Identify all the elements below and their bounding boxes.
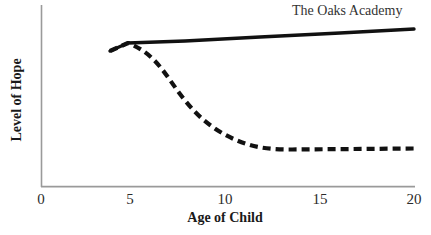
x-axis-title: Age of Child xyxy=(145,211,305,225)
series-line-oaks-academy xyxy=(110,29,414,51)
series-label-oaks-academy: The Oaks Academy xyxy=(292,3,402,18)
series-line-typical-trajectory xyxy=(110,43,414,150)
x-tick-label-5: 5 xyxy=(120,192,140,207)
x-tick-label-10: 10 xyxy=(212,192,238,207)
x-tick-label-15: 15 xyxy=(307,192,333,207)
chart-container: 0 5 10 15 20 Age of Child Level of Hope … xyxy=(0,0,431,235)
x-tick-label-0: 0 xyxy=(31,192,51,207)
x-tick-label-20: 20 xyxy=(401,192,427,207)
y-axis-title: Level of Hope xyxy=(10,35,24,165)
